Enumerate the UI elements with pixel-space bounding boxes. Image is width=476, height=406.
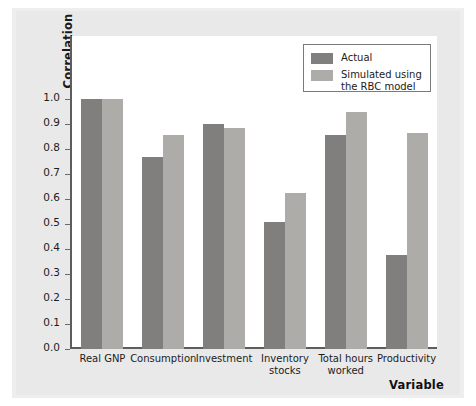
y-axis-tick-mark [65,349,70,350]
y-axis-tick-label: 0.1 [43,316,60,328]
figure-root: Correlation 0.00.10.20.30.40.50.60.70.80… [0,0,476,406]
x-axis-label: Productivity [368,353,445,365]
legend-swatch-simulated-icon [311,70,333,81]
legend-item-simulated: Simulated using the RBC model [311,69,422,92]
y-axis-tick: 0.8 [0,149,70,150]
bar-actual [81,99,102,349]
y-axis-title-container: Correlation [18,18,40,148]
bar-simulated [285,193,306,349]
y-axis-tick: 0.0 [0,349,70,350]
bar-group [194,36,255,349]
y-axis-tick: 0.4 [0,249,70,250]
bar-actual [325,135,346,349]
y-axis-tick-label: 0.2 [43,291,60,303]
y-axis-tick: 0.1 [0,324,70,325]
bar-actual [203,124,224,349]
bar-simulated [346,112,367,350]
y-axis-tick: 1.0 [0,99,70,100]
y-axis-tick-label: 0.9 [43,116,60,128]
x-axis-title: Variable [389,378,444,392]
y-axis-tick: 0.6 [0,199,70,200]
y-axis-tick: 0.5 [0,224,70,225]
y-axis-tick-label: 0.0 [43,341,60,353]
y-axis-tick-label: 0.8 [43,141,60,153]
bar-actual [386,255,407,349]
bar-simulated [163,135,184,349]
y-axis-tick-label: 0.3 [43,266,60,278]
legend-label-actual: Actual [341,52,372,64]
y-axis-tick-label: 0.7 [43,166,60,178]
bar-group [133,36,194,349]
legend-label-simulated: Simulated using the RBC model [341,69,422,92]
bar-actual [142,157,163,350]
y-axis-tick-label: 0.6 [43,191,60,203]
legend-swatch-actual-icon [311,53,333,64]
y-axis-tick-label: 1.0 [43,91,60,103]
bar-simulated [102,99,123,349]
y-axis-tick-label: 0.5 [43,216,60,228]
legend: Actual Simulated using the RBC model [303,44,431,92]
bar-group [72,36,133,349]
bar-simulated [407,133,428,349]
y-axis-tick: 0.2 [0,299,70,300]
bar-simulated [224,128,245,349]
y-axis-tick-label: 0.4 [43,241,60,253]
bar-actual [264,222,285,350]
y-axis-tick: 0.3 [0,274,70,275]
y-axis-tick: 0.7 [0,174,70,175]
legend-item-actual: Actual [311,52,372,64]
y-axis-tick: 0.9 [0,124,70,125]
